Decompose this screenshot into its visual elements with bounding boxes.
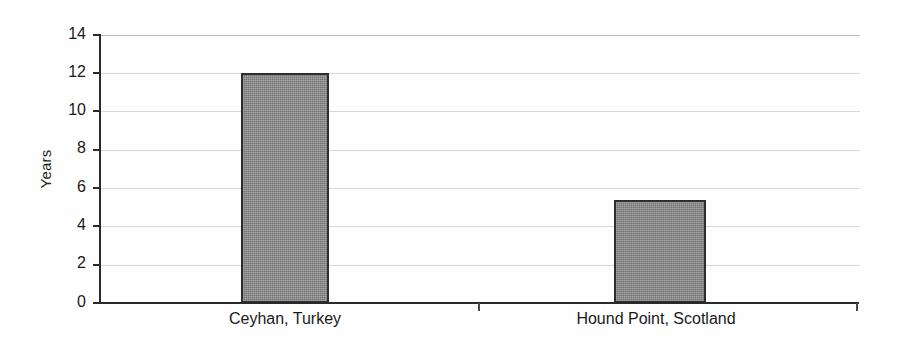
bar-chart: Years 14 12 10 8 6 4 2 0 Ceyhan, Turkey … <box>0 0 897 346</box>
gridline <box>100 226 860 227</box>
gridline <box>100 150 860 151</box>
bar-hound-point-scotland <box>614 200 706 303</box>
y-tick-label-wrap: 4 <box>44 226 86 227</box>
x-axis-tick-mark <box>856 303 858 311</box>
y-tick-label-wrap: 0 <box>44 303 86 304</box>
gridline <box>100 73 860 74</box>
y-axis-tick-label: 12 <box>46 63 86 81</box>
y-tick-label-wrap: 10 <box>44 111 86 112</box>
y-axis-tick-label: 6 <box>46 178 86 196</box>
y-tick-label-wrap: 2 <box>44 264 86 265</box>
y-tick-label-wrap: 8 <box>44 149 86 150</box>
y-axis-tick-label: 2 <box>46 254 86 272</box>
y-axis-tick-label: 10 <box>46 101 86 119</box>
y-axis-tick-label: 0 <box>46 293 86 311</box>
y-tick-label-wrap: 14 <box>44 35 86 36</box>
x-axis-category-label-1: Hound Point, Scotland <box>525 310 787 328</box>
gridline <box>100 188 860 189</box>
y-axis-tick-label: 4 <box>46 216 86 234</box>
gridline <box>100 265 860 266</box>
y-axis-tick-label: 8 <box>46 139 86 157</box>
gridline <box>100 35 860 36</box>
y-tick-label-wrap: 12 <box>44 73 86 74</box>
bar-ceyhan-turkey <box>241 73 329 303</box>
y-axis-tick-label: 14 <box>46 25 86 43</box>
x-axis-category-label-0: Ceyhan, Turkey <box>170 310 400 328</box>
plot-area <box>100 35 857 303</box>
gridline <box>100 111 860 112</box>
y-tick-label-wrap: 6 <box>44 188 86 189</box>
x-axis-tick-mark <box>478 303 480 311</box>
y-axis-line <box>99 34 101 304</box>
